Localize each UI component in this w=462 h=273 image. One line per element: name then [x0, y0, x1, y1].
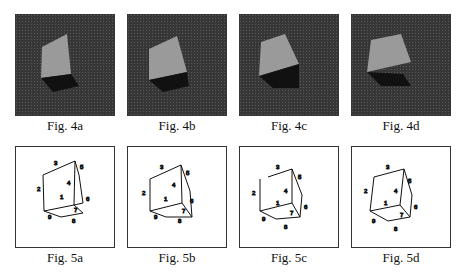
svg-text:1: 1: [60, 194, 64, 200]
svg-text:4: 4: [284, 188, 288, 194]
svg-text:8: 8: [72, 218, 76, 224]
cube-photo-4b: [127, 14, 227, 116]
svg-text:9: 9: [154, 214, 158, 220]
svg-text:3: 3: [386, 164, 390, 170]
caption-5a: Fig. 5a: [15, 250, 115, 266]
svg-text:2: 2: [252, 190, 256, 196]
svg-text:9: 9: [262, 216, 266, 222]
svg-text:3: 3: [276, 164, 280, 170]
svg-text:2: 2: [142, 190, 146, 196]
svg-text:6: 6: [86, 196, 90, 202]
svg-text:7: 7: [290, 210, 294, 216]
wireframe-5d: 35 24 16 798: [351, 146, 451, 248]
wireframe-5b: 35 24 16 798: [127, 146, 227, 248]
svg-text:1: 1: [384, 200, 388, 206]
svg-text:3: 3: [54, 160, 58, 166]
svg-text:4: 4: [67, 180, 71, 186]
svg-text:5: 5: [80, 164, 84, 170]
svg-text:4: 4: [394, 188, 398, 194]
svg-text:8: 8: [394, 226, 398, 232]
svg-text:5: 5: [408, 178, 412, 184]
svg-text:9: 9: [372, 218, 376, 224]
cube-photo-4a: [15, 14, 115, 116]
svg-text:5: 5: [186, 170, 190, 176]
cube-photo-4d: [351, 14, 451, 116]
svg-text:8: 8: [284, 224, 288, 230]
caption-5c: Fig. 5c: [239, 250, 339, 266]
caption-4a: Fig. 4a: [15, 118, 115, 134]
caption-5b: Fig. 5b: [127, 250, 227, 266]
caption-4d: Fig. 4d: [351, 118, 451, 134]
svg-text:7: 7: [182, 208, 186, 214]
caption-4b: Fig. 4b: [127, 118, 227, 134]
wireframe-5a: 35 24 16 798: [15, 146, 115, 248]
svg-text:1: 1: [276, 200, 280, 206]
svg-text:9: 9: [48, 214, 52, 220]
svg-text:6: 6: [414, 204, 418, 210]
svg-text:6: 6: [304, 204, 308, 210]
svg-text:6: 6: [190, 198, 194, 204]
svg-text:3: 3: [160, 164, 164, 170]
svg-text:2: 2: [364, 188, 368, 194]
svg-text:7: 7: [400, 212, 404, 218]
caption-5d: Fig. 5d: [351, 250, 451, 266]
wireframe-5c: 35 24 16 798: [239, 146, 339, 248]
svg-text:5: 5: [298, 174, 302, 180]
svg-text:1: 1: [164, 196, 168, 202]
caption-4c: Fig. 4c: [239, 118, 339, 134]
svg-text:2: 2: [37, 186, 41, 192]
svg-text:4: 4: [172, 182, 176, 188]
cube-photo-4c: [239, 14, 339, 116]
svg-text:8: 8: [178, 218, 182, 224]
